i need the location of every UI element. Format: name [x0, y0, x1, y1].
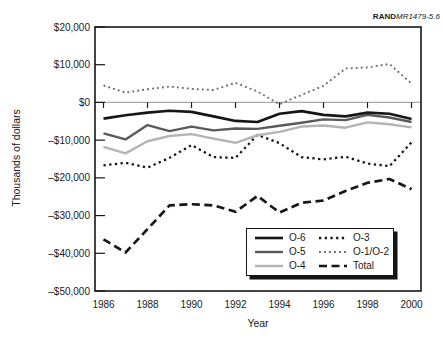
legend-item-o5: O-5	[254, 245, 314, 259]
x-tick-label: 2000	[400, 299, 423, 310]
legend-sample-line-o5	[254, 248, 284, 256]
y-tick-label: –$50,000	[48, 286, 90, 297]
y-tick-label: $0	[79, 97, 91, 108]
legend-column-right: O-3 O-1/O-2 Total	[318, 231, 389, 273]
legend-column-left: O-6 O-5 O-4	[254, 231, 314, 273]
legend-item-o6: O-6	[254, 231, 314, 245]
x-tick-label: 1996	[312, 299, 335, 310]
x-tick-label: 1986	[92, 299, 115, 310]
series-line-o4	[104, 122, 412, 153]
legend-item-o1o2: O-1/O-2	[318, 245, 389, 259]
legend-sample-line-total	[318, 262, 348, 270]
legend: O-6 O-5 O-4 O-3 O-1/O-2 Total	[246, 228, 394, 276]
y-tick-label: $10,000	[54, 59, 91, 70]
legend-item-o4: O-4	[254, 259, 314, 273]
series-line-o1o2	[104, 64, 412, 104]
x-tick-label: 1990	[180, 299, 203, 310]
x-tick-label: 1994	[268, 299, 291, 310]
legend-sample-line-o1o2	[318, 248, 348, 256]
x-axis-title: Year	[95, 317, 421, 329]
y-tick-label: –$10,000	[48, 135, 90, 146]
legend-item-o3: O-3	[318, 231, 389, 245]
y-tick-label: –$20,000	[48, 172, 90, 183]
legend-sample-line-o6	[254, 234, 284, 242]
legend-label-o5: O-5	[289, 247, 306, 257]
legend-label-o3: O-3	[353, 233, 370, 243]
line-chart: 19861988199019921994199619982000$20,000$…	[0, 0, 443, 347]
legend-sample-line-o4	[254, 262, 284, 270]
legend-label-total: Total	[353, 261, 374, 271]
y-tick-label: –$40,000	[48, 248, 90, 259]
figure-container: RANDMR1479-5.6 Thousands of dollars 1986…	[0, 0, 443, 347]
legend-label-o1o2: O-1/O-2	[353, 247, 389, 257]
legend-label-o4: O-4	[289, 261, 306, 271]
x-tick-label: 1998	[356, 299, 379, 310]
legend-sample-line-o3	[318, 234, 348, 242]
x-tick-label: 1992	[224, 299, 247, 310]
legend-item-total: Total	[318, 259, 389, 273]
y-tick-label: $20,000	[54, 22, 91, 33]
x-tick-label: 1988	[136, 299, 159, 310]
legend-label-o6: O-6	[289, 233, 306, 243]
y-tick-label: –$30,000	[48, 210, 90, 221]
